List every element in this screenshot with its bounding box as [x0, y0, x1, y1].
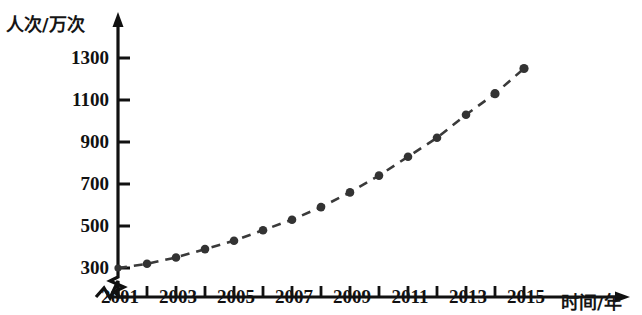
data-point [259, 226, 268, 235]
data-point [490, 89, 499, 98]
data-point [114, 264, 121, 271]
y-tick-label-1300: 1300 [71, 47, 109, 69]
y-tick-label-900: 900 [81, 131, 110, 153]
x-tick-label-2005: 2005 [217, 286, 255, 308]
y-tick-label-700: 700 [81, 173, 110, 195]
data-point [519, 64, 528, 73]
data-point [143, 260, 152, 269]
series-dashed-line [118, 69, 524, 269]
y-tick-label-500: 500 [81, 215, 110, 237]
y-axis-ticks [118, 58, 130, 268]
data-point [172, 253, 181, 262]
y-axis [110, 12, 130, 297]
x-axis-title: 时间/年 [561, 288, 622, 314]
data-series-renjici [114, 64, 528, 272]
series-markers [114, 64, 528, 272]
x-tick-label-2009: 2009 [333, 286, 371, 308]
data-point [346, 188, 355, 197]
x-tick-label-2015: 2015 [507, 286, 545, 308]
y-axis-title: 人次/万次 [6, 10, 85, 36]
x-tick-label-2013: 2013 [449, 286, 487, 308]
x-tick-label-2001: 2001 [101, 286, 139, 308]
data-point [404, 152, 413, 161]
data-point [433, 134, 442, 143]
data-point [288, 215, 297, 224]
data-point [317, 203, 326, 212]
x-tick-label-2007: 2007 [275, 286, 313, 308]
data-point [201, 245, 210, 254]
data-point [375, 171, 384, 180]
line-chart: 人次/万次 时间/年 1300 1100 900 700 500 300 200… [0, 0, 642, 315]
data-point [462, 110, 471, 119]
y-tick-label-1100: 1100 [72, 89, 109, 111]
x-tick-label-2011: 2011 [392, 286, 429, 308]
data-point [230, 236, 239, 245]
x-tick-label-2003: 2003 [159, 286, 197, 308]
y-tick-label-300: 300 [81, 257, 110, 279]
